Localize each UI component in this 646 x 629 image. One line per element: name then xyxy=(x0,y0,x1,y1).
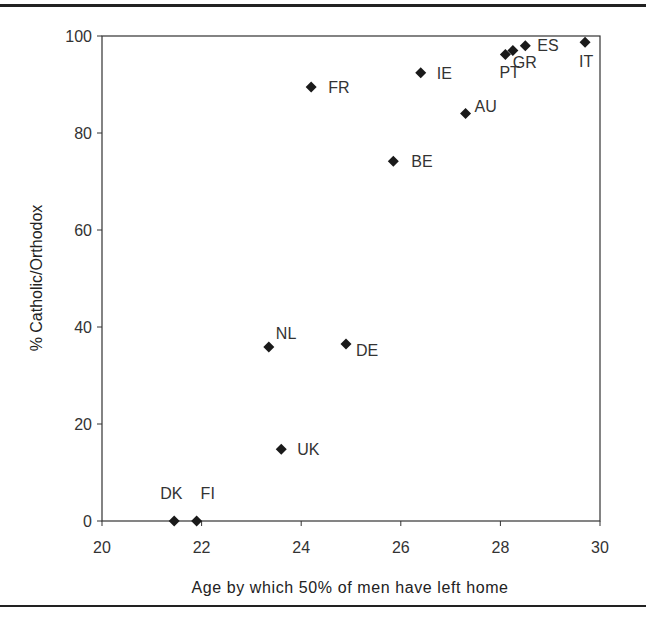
data-point-uk: UK xyxy=(276,441,320,458)
y-tick-label: 60 xyxy=(74,222,92,239)
point-label: DE xyxy=(356,342,378,359)
diamond-marker-icon xyxy=(263,341,274,352)
point-label: FI xyxy=(201,485,215,502)
data-point-au: AU xyxy=(460,98,497,120)
x-tick-label: 30 xyxy=(591,539,609,556)
x-tick-label: 28 xyxy=(492,539,510,556)
data-point-fi: FI xyxy=(191,485,215,527)
diamond-marker-icon xyxy=(415,67,426,78)
diamond-marker-icon xyxy=(520,40,531,51)
point-label: DK xyxy=(160,485,183,502)
y-axis: 020406080100 xyxy=(65,28,102,530)
y-tick-label: 100 xyxy=(65,28,92,45)
data-point-dk: DK xyxy=(160,485,183,527)
x-tick-label: 22 xyxy=(193,539,211,556)
diamond-marker-icon xyxy=(306,81,317,92)
point-label: UK xyxy=(297,441,320,458)
data-point-de: DE xyxy=(341,338,379,359)
point-label: FR xyxy=(328,79,349,96)
bottom-rule xyxy=(0,605,646,607)
x-tick-label: 20 xyxy=(93,539,111,556)
point-label: IT xyxy=(579,53,593,70)
data-points: DKFINLUKFRDEBEIEAUPTGRESIT xyxy=(160,37,593,527)
point-label: NL xyxy=(276,325,297,342)
diamond-marker-icon xyxy=(276,444,287,455)
y-tick-label: 0 xyxy=(83,513,92,530)
diamond-marker-icon xyxy=(460,108,471,119)
point-label: GR xyxy=(513,54,537,71)
data-point-fr: FR xyxy=(306,79,350,96)
x-axis: 202224262830 xyxy=(93,521,609,556)
data-point-ie: IE xyxy=(415,65,452,82)
point-label: ES xyxy=(537,37,558,54)
x-axis-title: Age by which 50% of men have left home xyxy=(191,579,508,596)
diamond-marker-icon xyxy=(191,516,202,527)
point-label: AU xyxy=(475,98,497,115)
diamond-marker-icon xyxy=(341,338,352,349)
x-tick-label: 24 xyxy=(292,539,310,556)
diamond-marker-icon xyxy=(169,516,180,527)
y-tick-label: 80 xyxy=(74,125,92,142)
data-point-it: IT xyxy=(579,37,593,71)
y-tick-label: 40 xyxy=(74,319,92,336)
plot-border xyxy=(102,36,600,521)
point-label: BE xyxy=(411,153,432,170)
data-point-be: BE xyxy=(388,153,433,170)
diamond-marker-icon xyxy=(580,37,591,48)
plot-area xyxy=(102,36,600,521)
point-label: IE xyxy=(437,65,452,82)
data-point-es: ES xyxy=(520,37,559,54)
scatter-chart: 020406080100 202224262830 DKFINLUKFRDEBE… xyxy=(0,0,646,629)
y-axis-title: % Catholic/Orthodox xyxy=(28,205,45,352)
y-tick-label: 20 xyxy=(74,416,92,433)
diamond-marker-icon xyxy=(388,156,399,167)
data-point-nl: NL xyxy=(263,325,296,353)
x-tick-label: 26 xyxy=(392,539,410,556)
